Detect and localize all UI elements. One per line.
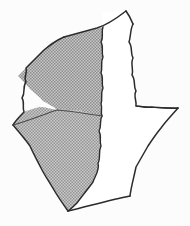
figure-caption bbox=[0, 220, 190, 226]
crystal-illustration bbox=[0, 0, 190, 226]
figure-page bbox=[0, 0, 190, 226]
